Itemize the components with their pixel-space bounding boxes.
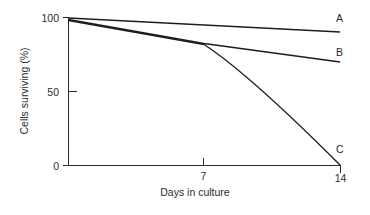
x-axis-title: Days in culture: [160, 186, 230, 198]
y-tick-label-50: 50: [47, 86, 59, 98]
y-tick-label-0: 0: [53, 160, 59, 172]
chart-background: [0, 0, 370, 215]
x-tick-label-14: 14: [335, 172, 347, 184]
line-chart: 100 50 0 7 14 A B C Days in culture Cell…: [0, 0, 370, 215]
chart-figure: 100 50 0 7 14 A B C Days in culture Cell…: [0, 0, 370, 215]
series-label-b: B: [336, 46, 343, 58]
series-label-a: A: [336, 12, 343, 24]
x-tick-label-7: 7: [201, 170, 207, 182]
y-tick-label-100: 100: [41, 12, 59, 24]
y-axis-title: Cells surviving (%): [18, 48, 30, 135]
series-label-c: C: [336, 143, 344, 155]
